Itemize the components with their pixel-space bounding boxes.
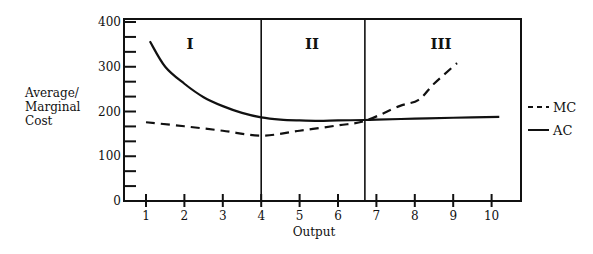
y-tick-label: 0: [113, 194, 121, 208]
cost-curves-chart: 0100200300400 12345678910 IIIIII Average…: [0, 0, 593, 254]
x-tick-label: 2: [181, 209, 189, 223]
legend-label-mc: MC: [553, 100, 576, 115]
x-tick-label: 5: [296, 209, 304, 223]
region-label-ii: II: [305, 35, 319, 53]
x-tick-label: 3: [219, 209, 227, 223]
y-axis-title: Average/MarginalCost: [24, 86, 81, 128]
y-tick-label: 100: [98, 149, 121, 163]
region-label-i: I: [186, 35, 193, 53]
x-tick-label: 6: [334, 209, 342, 223]
y-tick-label: 400: [98, 15, 121, 29]
x-tick-label: 10: [484, 209, 499, 223]
data-series: [146, 41, 499, 135]
region-label-iii: III: [430, 35, 451, 53]
plot-frame: [124, 19, 521, 201]
x-axis-ticks: 12345678910: [142, 194, 499, 223]
ac-curve: [150, 41, 499, 121]
legend: MCAC: [528, 100, 576, 138]
x-tick-label: 8: [411, 209, 419, 223]
y-tick-label: 300: [98, 60, 121, 74]
plot-border: [124, 19, 521, 201]
mc-curve: [146, 63, 457, 135]
y-axis-title-line: Cost: [25, 114, 53, 128]
x-tick-label: 4: [257, 209, 265, 223]
y-axis-ticks: 0100200300400: [98, 15, 136, 208]
y-axis-title-line: Marginal: [25, 100, 81, 114]
y-tick-label: 200: [98, 105, 121, 119]
legend-label-ac: AC: [552, 123, 572, 138]
x-tick-label: 7: [373, 209, 381, 223]
y-axis-title-line: Average/: [24, 86, 80, 100]
x-tick-label: 1: [142, 209, 150, 223]
x-axis-title: Output: [293, 225, 336, 239]
region-labels: IIIIII: [186, 35, 451, 53]
x-tick-label: 9: [449, 209, 457, 223]
